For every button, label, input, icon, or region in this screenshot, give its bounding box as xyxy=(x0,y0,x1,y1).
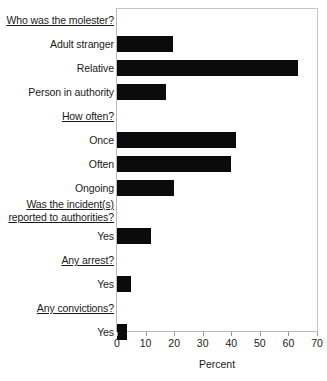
bar xyxy=(117,60,298,76)
x-axis-tick-label: 50 xyxy=(245,337,275,349)
section-header-row: Was the incident(s)reported to authoriti… xyxy=(0,200,327,224)
bar-category-label: Often xyxy=(2,152,114,176)
section-header-label: Any convictions? xyxy=(2,296,114,320)
bar-category-label: Relative xyxy=(2,56,114,80)
x-axis-tick-label: 70 xyxy=(302,337,327,349)
section-header-row: Any convictions? xyxy=(0,296,327,320)
x-axis-tick xyxy=(260,332,261,336)
bar-row: Ongoing xyxy=(0,176,327,200)
x-axis-tick xyxy=(117,332,118,336)
bar-row: Yes xyxy=(0,224,327,248)
bar-row: Person in authority xyxy=(0,80,327,104)
bar-row: Often xyxy=(0,152,327,176)
x-axis-tick-label: 20 xyxy=(159,337,189,349)
x-axis-title: Percent xyxy=(116,358,318,370)
x-axis-tick xyxy=(203,332,204,336)
bar-category-label: Yes xyxy=(2,224,114,248)
x-axis-tick xyxy=(146,332,147,336)
bar-row: Yes xyxy=(0,272,327,296)
bar xyxy=(117,156,231,172)
bar xyxy=(117,228,151,244)
chart-rows: Who was the molester?Adult strangerRelat… xyxy=(0,8,327,332)
section-header-row: How often? xyxy=(0,104,327,128)
bar-category-label: Once xyxy=(2,128,114,152)
x-axis-tick xyxy=(174,332,175,336)
x-axis-tick xyxy=(317,332,318,336)
x-axis-tick-label: 10 xyxy=(131,337,161,349)
bar-chart: Who was the molester?Adult strangerRelat… xyxy=(0,0,327,381)
section-header-label: How often? xyxy=(2,104,114,128)
x-axis-tick-label: 40 xyxy=(216,337,246,349)
bar-row: Once xyxy=(0,128,327,152)
bar-category-label: Yes xyxy=(2,320,114,344)
section-header-label: Was the incident(s)reported to authoriti… xyxy=(2,198,114,222)
bar-category-label: Ongoing xyxy=(2,176,114,200)
bar xyxy=(117,84,166,100)
bar-row: Adult stranger xyxy=(0,32,327,56)
bar xyxy=(117,180,174,196)
x-axis-tick-label: 60 xyxy=(273,337,303,349)
x-axis-tick xyxy=(231,332,232,336)
bar-category-label: Adult stranger xyxy=(2,32,114,56)
section-header-label: Who was the molester? xyxy=(2,8,114,32)
section-header-label: Any arrest? xyxy=(2,248,114,272)
bar-row: Relative xyxy=(0,56,327,80)
bar-category-label: Person in authority xyxy=(2,80,114,104)
bar xyxy=(117,132,236,148)
x-axis-tick xyxy=(288,332,289,336)
section-header-row: Who was the molester? xyxy=(0,8,327,32)
x-axis: 010203040506070 xyxy=(116,332,318,352)
x-axis-tick-label: 0 xyxy=(102,337,132,349)
x-axis-tick-label: 30 xyxy=(188,337,218,349)
bar xyxy=(117,36,173,52)
bar-category-label: Yes xyxy=(2,272,114,296)
bar xyxy=(117,276,131,292)
section-header-row: Any arrest? xyxy=(0,248,327,272)
